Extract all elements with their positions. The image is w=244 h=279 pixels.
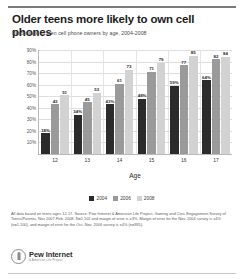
logo-text: Pew Internet & American Life Project [29, 251, 72, 263]
bar-group: 43%617314 [103, 50, 135, 154]
plot-area: 10%20%30%40%50%60%70%80%90% 18%43511234%… [38, 50, 232, 155]
plot-wrapper: 10%20%30%40%50%60%70%80%90% 18%43511234%… [8, 44, 236, 169]
legend-item: 2008 [137, 196, 155, 201]
x-axis-tick-label: 13 [84, 157, 90, 163]
bar: 48% [138, 99, 147, 154]
y-axis-tick-label: 20% [27, 128, 36, 133]
x-axis-tick-label: 14 [117, 157, 123, 163]
chart-legend: 200420062008 [0, 196, 244, 201]
pew-internet-logo: Pew Internet & American Life Project [11, 249, 72, 264]
bar-groups: 18%43511234%45531343%61731448%71791559%7… [39, 50, 232, 154]
logo-subtitle: & American Life Project [29, 259, 72, 262]
y-axis-tick-label: 40% [27, 105, 36, 110]
bar-value-label: 79 [159, 57, 164, 62]
pew-logo-mark-icon [11, 249, 26, 264]
y-axis-tick-label: 70% [27, 71, 36, 76]
bar: 71 [147, 72, 156, 154]
x-axis-title: Age [38, 172, 232, 179]
bar-group: 18%435112 [39, 50, 71, 154]
bar: 64% [202, 80, 211, 154]
legend-item: 2004 [89, 196, 107, 201]
bar-value-label: 59% [170, 80, 179, 85]
bar: 34% [74, 115, 83, 154]
bar-value-label: 34% [73, 109, 82, 114]
bar-group: 34%455313 [71, 50, 103, 154]
bar: 84 [221, 57, 230, 154]
legend-label: 2004 [96, 196, 107, 201]
bar-value-label: 43% [106, 99, 115, 104]
bar-value-label: 73 [126, 64, 131, 69]
x-axis-tick-label: 16 [181, 157, 187, 163]
logo-name: Pew Internet [29, 251, 72, 259]
bar: 73 [125, 70, 134, 154]
legend-swatch [89, 196, 94, 201]
y-axis-tick-label: 10% [27, 140, 36, 145]
bar: 79 [157, 63, 166, 154]
chart-figure: Older teens more likely to own cell phon… [0, 0, 244, 279]
footnote: All data based on teens ages 12-17. Sour… [11, 211, 233, 227]
bar-value-label: 18% [41, 128, 50, 133]
legend-label: 2008 [144, 196, 155, 201]
y-axis-tick-label: 90% [27, 48, 36, 53]
bar-value-label: 71 [149, 66, 154, 71]
bar: 61 [115, 84, 124, 154]
bar-group: 59%778516 [168, 50, 200, 154]
bar-value-label: 85 [191, 50, 196, 55]
bar-value-label: 84 [223, 51, 228, 56]
bar: 53 [93, 93, 102, 154]
bar: 51 [60, 95, 69, 154]
y-axis-tick-label: 30% [27, 117, 36, 122]
bar: 43% [106, 104, 115, 154]
bar: 85 [189, 56, 198, 154]
legend-label: 2006 [120, 196, 131, 201]
bar-group: 64%828417 [200, 50, 232, 154]
bar-value-label: 48% [138, 93, 147, 98]
legend-swatch [137, 196, 142, 201]
bar: 18% [41, 133, 50, 154]
bar: 45 [83, 102, 92, 154]
y-axis-tick-label: 60% [27, 82, 36, 87]
bar-group: 48%717915 [136, 50, 168, 154]
bar: 59% [170, 86, 179, 154]
legend-swatch [113, 196, 118, 201]
bar: 82 [212, 59, 221, 154]
bar: 77 [180, 65, 189, 154]
bottom-divider [8, 273, 236, 274]
bar-value-label: 64% [202, 75, 211, 80]
top-divider [8, 6, 236, 8]
bar-value-label: 43 [53, 99, 58, 104]
bar-value-label: 61 [117, 78, 122, 83]
bar-value-label: 51 [62, 90, 67, 95]
bar-value-label: 77 [181, 60, 186, 65]
y-axis-tick-label: 50% [27, 94, 36, 99]
bar: 43 [51, 104, 60, 154]
bar-value-label: 53 [94, 87, 99, 92]
x-axis-tick-label: 15 [149, 157, 155, 163]
legend-item: 2006 [113, 196, 131, 201]
x-axis-tick-label: 12 [52, 157, 58, 163]
y-axis-tick-label: 80% [27, 59, 36, 64]
bar-value-label: 82 [213, 54, 218, 59]
x-axis-tick-label: 17 [213, 157, 219, 163]
chart-subtitle: Percentage of teen cell phone owners by … [12, 30, 236, 37]
bar-value-label: 45 [85, 97, 90, 102]
